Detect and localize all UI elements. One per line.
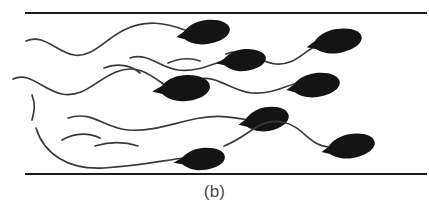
sperm-tail <box>26 23 185 55</box>
free-strand <box>62 134 100 140</box>
sperm-head <box>151 73 211 104</box>
sperm-head <box>172 146 226 173</box>
sperm-tail <box>68 116 250 130</box>
free-strand <box>95 143 138 146</box>
sperm-cell <box>13 69 211 104</box>
free-strand <box>168 59 200 63</box>
sperm-cell <box>36 128 226 173</box>
sperm-cell <box>224 121 377 163</box>
sperm-tail <box>36 128 184 168</box>
sperm-cells <box>13 17 377 173</box>
sperm-head <box>304 25 363 58</box>
sperm-tail <box>130 57 226 71</box>
sperm-cell <box>196 70 341 101</box>
sperm-head <box>285 70 342 101</box>
sperm-tail <box>196 78 298 93</box>
sperm-head <box>175 17 232 48</box>
sperm-channel-diagram <box>0 0 429 208</box>
sperm-cell <box>26 17 231 55</box>
sperm-cell <box>68 104 291 136</box>
figure-caption: (b) <box>0 182 429 202</box>
sperm-head <box>215 47 267 74</box>
free-strand <box>32 95 34 120</box>
sperm-tail <box>13 69 166 95</box>
figure-container: (b) <box>0 0 429 208</box>
